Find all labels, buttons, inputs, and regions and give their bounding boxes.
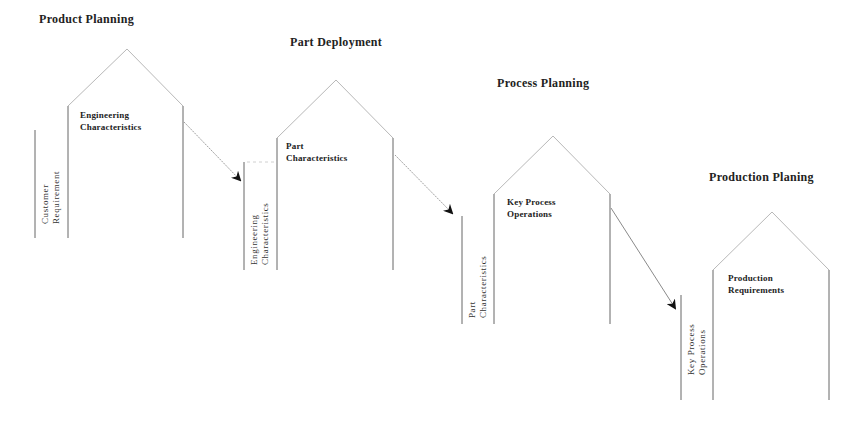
house-label-engineering-characteristics: Engineering Characteristics bbox=[80, 109, 141, 133]
stage-title-production-planning: Production Planing bbox=[709, 170, 814, 185]
roof bbox=[494, 136, 610, 194]
stage-title-process-planning: Process Planning bbox=[497, 76, 589, 91]
stage-title-product-planning: Product Planning bbox=[39, 12, 134, 27]
roof bbox=[277, 80, 393, 138]
roof bbox=[713, 212, 829, 270]
house-of-quality-diagram bbox=[0, 0, 861, 425]
house-label-key-process-operations: Key Process Operations bbox=[507, 196, 556, 220]
stage-title-part-deployment: Part Deployment bbox=[290, 35, 382, 50]
arrow-stage2-to-stage3 bbox=[395, 155, 452, 213]
house-label-part-characteristics: Part Characteristics bbox=[286, 140, 347, 164]
side-label-customer-requirement: Customer Requirement bbox=[40, 171, 62, 224]
arrow-stage3-to-stage4 bbox=[611, 208, 675, 308]
house-label-production-requirements: Production Requirements bbox=[728, 272, 784, 296]
side-label-engineering-characteristics: Engineering Characteristics bbox=[249, 203, 271, 265]
side-label-part-characteristics: Part Characteristics bbox=[467, 256, 489, 318]
roof bbox=[68, 49, 183, 106]
side-label-key-process-operations: Key Process Operations bbox=[686, 324, 708, 375]
arrow-stage1-to-stage2 bbox=[184, 122, 240, 180]
